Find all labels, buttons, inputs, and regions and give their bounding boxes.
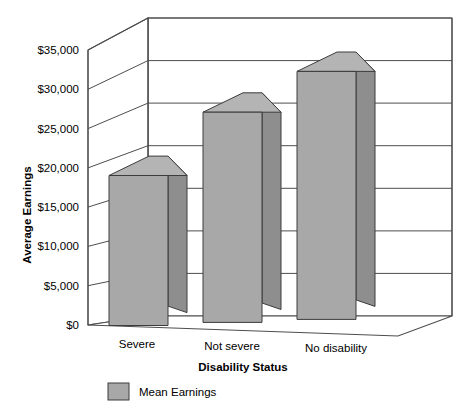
bar-not-severe-side [262, 93, 281, 310]
y-tick-label: $25,000 [37, 123, 79, 135]
chart-canvas: $35,000 $30,000 $25,000 $20,000 $15,000 … [0, 0, 468, 416]
bar-no-disability-front [297, 71, 356, 319]
y-tick-label: $30,000 [37, 83, 79, 95]
y-tick-label: $5,000 [44, 280, 79, 292]
bar-severe[interactable] [109, 156, 187, 325]
bar-not-severe-front [203, 112, 262, 322]
legend: Mean Earnings [108, 383, 217, 400]
y-axis-title: Average Earnings [21, 166, 33, 263]
y-tick-label: $20,000 [37, 162, 79, 174]
bar-severe-side [168, 156, 187, 313]
x-tick-label-severe: Severe [119, 338, 155, 350]
bar-severe-front [109, 176, 168, 326]
y-axis-ticks: $35,000 $30,000 $25,000 $20,000 $15,000 … [37, 44, 79, 331]
y-tick-label: $15,000 [37, 201, 79, 213]
bar-no-disability-side [356, 52, 375, 306]
earnings-bar-chart: $35,000 $30,000 $25,000 $20,000 $15,000 … [0, 0, 468, 416]
y-tick-label: $0 [66, 319, 79, 331]
legend-label-mean-earnings: Mean Earnings [139, 386, 217, 398]
bar-not-severe[interactable] [203, 93, 281, 323]
bar-no-disability[interactable] [297, 52, 375, 319]
x-axis-categories: Severe Not severe No disability [119, 338, 367, 354]
x-axis-title: Disability Status [198, 361, 287, 373]
mean-earnings-swatch [108, 383, 129, 400]
x-tick-label-no-disability: No disability [305, 342, 367, 354]
y-tick-label: $10,000 [37, 240, 79, 252]
x-tick-label-not-severe: Not severe [204, 340, 260, 352]
y-tick-label: $35,000 [37, 44, 79, 56]
